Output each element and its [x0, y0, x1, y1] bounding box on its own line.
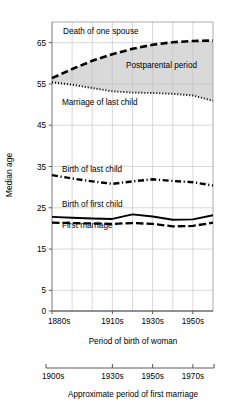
y-tick-label: 5 [41, 286, 46, 295]
chart-figure: 05152535455565 1880s1910s1930s1950s Deat… [0, 0, 230, 415]
y-tick-label: 25 [37, 204, 47, 213]
y-tick-label: 65 [37, 39, 47, 48]
y-tick-label: 0 [41, 307, 46, 316]
secondary-tick-label: 1900s [42, 372, 64, 381]
y-tick-label: 55 [37, 80, 47, 89]
x-tick-label: 1930s [141, 317, 163, 326]
secondary-x-axis-title: Approximate period of first marriage [68, 390, 199, 399]
curve-label-1: Postparental period [126, 61, 197, 70]
curve-label-3: Birth of last child [62, 165, 123, 174]
secondary-tick-label: 1950s [141, 372, 163, 381]
median-age-life-course-chart: 05152535455565 1880s1910s1930s1950s Deat… [0, 0, 230, 415]
curve-label-2: Marriage of last child [62, 98, 138, 107]
y-tick-label: 15 [37, 245, 47, 254]
x-axis-title: Period of birth of woman [89, 337, 178, 346]
y-tick-label: 45 [37, 121, 47, 130]
x-tick-label: 1950s [182, 317, 204, 326]
curve-label-4: Birth of first child [62, 200, 123, 209]
curve-label-0: Death of one spouse [63, 27, 139, 36]
y-axis-title: Median age [4, 153, 14, 198]
y-tick-label: 35 [37, 163, 47, 172]
x-tick-label: 1910s [101, 317, 123, 326]
secondary-tick-label: 1970s [182, 372, 204, 381]
x-tick-label: 1880s [48, 317, 70, 326]
curve-label-5: First marriage [62, 221, 113, 230]
secondary-tick-label: 1930s [101, 372, 123, 381]
